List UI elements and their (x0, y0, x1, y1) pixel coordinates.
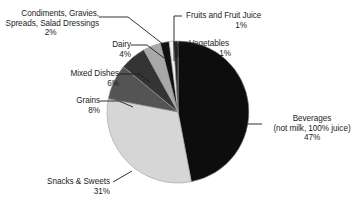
slice-label-beverages-line1: Beverages (293, 114, 332, 123)
slice-label-fruits-line1: Fruits and Fruit Juice (186, 11, 261, 20)
pie-slice-beverages (178, 41, 249, 182)
slice-label-condiments-line1: Condiments, Gravies, (21, 9, 99, 18)
slice-label-mixed-dishes-line1: Mixed Dishes (70, 69, 119, 78)
slice-label-beverages: Beverages (not milk, 100% juice) 47% (266, 114, 358, 143)
slice-percent-fruits: 1% (186, 21, 296, 31)
pie-slice-group (107, 41, 249, 183)
slice-label-dairy: Dairy 4% (76, 40, 131, 59)
slice-label-grains: Grains 8% (42, 96, 100, 115)
slice-label-mixed-dishes: Mixed Dishes 6% (39, 69, 119, 88)
slice-label-grains-line1: Grains (76, 96, 100, 105)
slice-percent-snacks: 31% (20, 187, 110, 197)
slice-label-snacks-line1: Snacks & Sweets (47, 177, 110, 186)
pie-chart-figure: Condiments, Gravies, Spreads, Salad Dres… (0, 0, 361, 213)
slice-label-fruits: Fruits and Fruit Juice 1% (186, 11, 296, 30)
slice-label-vegetables: Vegetables 1% (189, 39, 261, 58)
slice-percent-mixed-dishes: 6% (39, 79, 119, 89)
leader-line-snacks (113, 171, 132, 182)
slice-label-condiments: Condiments, Gravies, Spreads, Salad Dres… (2, 9, 99, 38)
slice-label-snacks: Snacks & Sweets 31% (20, 177, 110, 196)
slice-label-dairy-line1: Dairy (112, 40, 131, 49)
slice-percent-vegetables: 1% (189, 49, 261, 59)
slice-percent-grains: 8% (42, 106, 100, 116)
slice-percent-dairy: 4% (76, 50, 131, 60)
slice-label-condiments-line2: Spreads, Salad Dressings (6, 19, 99, 28)
slice-label-vegetables-line1: Vegetables (189, 39, 229, 48)
slice-label-beverages-line2: (not milk, 100% juice) (273, 124, 350, 133)
slice-percent-beverages: 47% (266, 133, 358, 143)
slice-percent-condiments: 2% (2, 28, 99, 38)
